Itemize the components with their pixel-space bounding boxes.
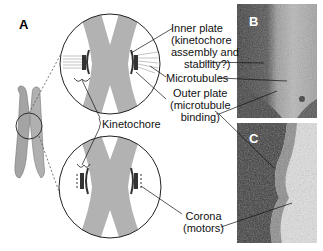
label-inner-plate: Inner plate (kinetochore assembly and st…	[171, 22, 239, 70]
chromosome-small	[15, 86, 45, 178]
kinetochore-schematic	[0, 0, 323, 251]
magnified-view-top	[60, 10, 160, 118]
label-kinetochore: Kinetochore	[102, 118, 161, 130]
label-microtubules: Microtubules	[166, 72, 228, 84]
label-outer-plate: Outer plate (microtubule binding)	[170, 87, 231, 123]
label-corona: Corona (motors)	[183, 210, 224, 234]
magnified-view-bottom	[59, 132, 161, 240]
